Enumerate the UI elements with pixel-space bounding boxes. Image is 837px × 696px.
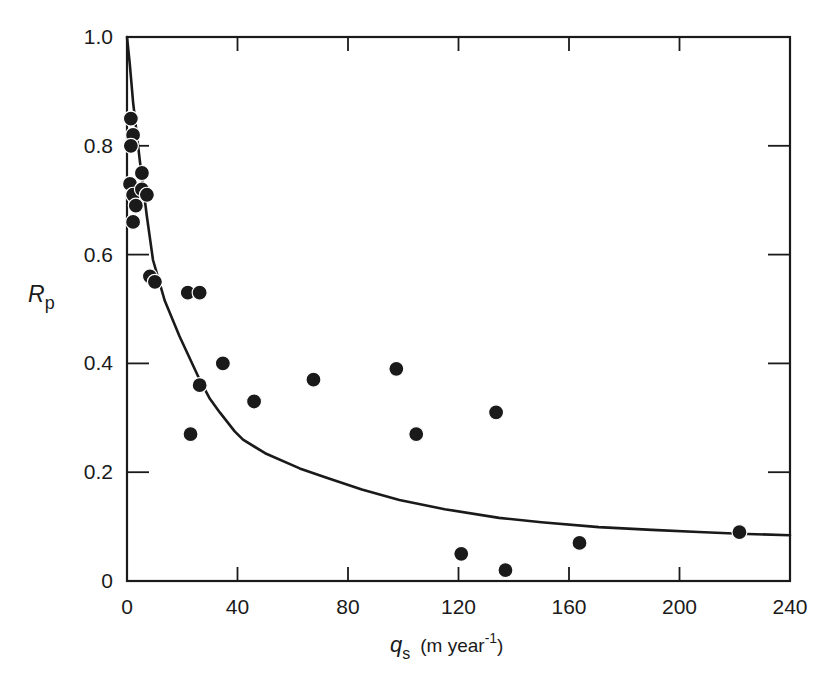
data-point [215,356,230,371]
data-point [306,372,321,387]
data-point [498,563,513,578]
x-axis-label-close: ) [497,635,503,656]
data-point [134,166,149,181]
x-axis-label-sub: s [402,645,410,662]
y-tick-label: 0.8 [84,134,113,157]
fitted-curve [127,37,790,535]
y-tick-labels: 00.20.40.60.81.0 [84,25,114,592]
data-point [123,138,138,153]
x-tick-label: 120 [441,595,476,618]
x-tick-labels: 04080120160200240 [121,595,807,618]
data-point [147,274,162,289]
data-point [126,214,141,229]
data-point [183,427,198,442]
data-point [732,525,747,540]
y-tick-label: 0 [101,569,113,592]
plot-frame [127,37,790,581]
data-point [247,394,262,409]
data-point [128,198,143,213]
y-tick-label: 1.0 [84,25,113,48]
x-tick-label: 160 [551,595,586,618]
x-tick-label: 80 [336,595,359,618]
data-point [489,405,504,420]
plot-border [127,37,790,581]
y-tick-label: 0.2 [84,460,113,483]
data-point [572,535,587,550]
scatter-chart: 00.20.40.60.81.0 04080120160200240 Rp qs… [0,0,837,696]
x-axis-label: qs(m year-1) [390,630,503,662]
x-tick-label: 0 [121,595,133,618]
axis-ticks [127,37,790,581]
x-tick-label: 200 [662,595,697,618]
data-point [454,546,469,561]
data-point [192,285,207,300]
x-axis-label-var: q [390,632,403,657]
y-axis-label: Rp [28,281,55,313]
data-point [192,378,207,393]
data-point [389,361,404,376]
x-axis-label-unit: (m year [420,635,485,656]
data-point [123,111,138,126]
fitted-curve-path [127,37,790,535]
x-tick-label: 40 [226,595,249,618]
y-tick-label: 0.6 [84,243,113,266]
y-axis-label-sub: p [45,293,55,313]
y-tick-label: 0.4 [84,351,114,374]
x-axis-label-sup: -1 [485,630,498,646]
y-axis-label-var: R [28,281,45,307]
x-tick-label: 240 [772,595,807,618]
data-point [409,427,424,442]
